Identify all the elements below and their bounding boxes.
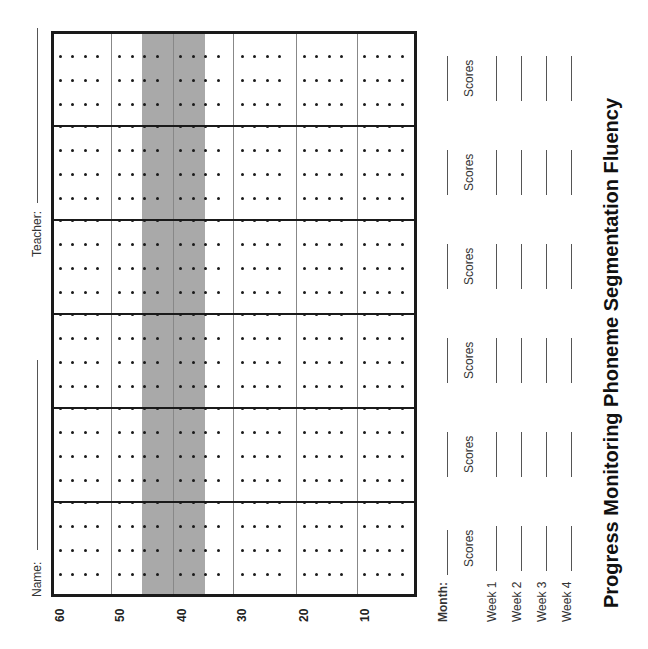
grid-dot xyxy=(363,431,366,434)
grid-dot xyxy=(71,385,74,388)
week-score-line[interactable] xyxy=(521,56,522,101)
grid-dot xyxy=(388,103,391,106)
grid-dot xyxy=(401,549,404,552)
grid-dot xyxy=(376,219,379,222)
grid-dot xyxy=(84,55,87,58)
grid-dot xyxy=(253,149,256,152)
grid-dot xyxy=(303,501,306,504)
month-field-line[interactable] xyxy=(447,56,448,101)
grid-dot xyxy=(179,79,182,82)
grid-dot xyxy=(96,501,99,504)
week-score-line[interactable] xyxy=(496,526,497,571)
grid-dot xyxy=(328,573,331,576)
week-score-line[interactable] xyxy=(521,338,522,383)
grid-dot xyxy=(328,291,331,294)
grid-dot xyxy=(388,385,391,388)
grid-dot xyxy=(96,431,99,434)
week-score-line[interactable] xyxy=(546,150,547,195)
month-field-line[interactable] xyxy=(447,150,448,195)
week-score-line[interactable] xyxy=(521,150,522,195)
week-score-line[interactable] xyxy=(521,526,522,571)
grid-dot xyxy=(278,431,281,434)
grid-dot xyxy=(59,79,62,82)
grid-dot xyxy=(118,337,121,340)
grid-dot xyxy=(192,501,195,504)
grid-dot xyxy=(59,219,62,222)
grid-dot xyxy=(328,337,331,340)
grid-dot xyxy=(376,549,379,552)
grid-dot xyxy=(278,573,281,576)
grid-dot xyxy=(253,431,256,434)
grid-dot xyxy=(59,407,62,410)
name-field-line[interactable] xyxy=(37,360,38,550)
grid-dot xyxy=(217,55,220,58)
grid-dot xyxy=(143,55,146,58)
axis-tick-20: 20 xyxy=(297,609,311,622)
grid-dot xyxy=(376,337,379,340)
week-3-label: Week 3 xyxy=(535,582,549,622)
grid-dot xyxy=(59,103,62,106)
grid-dot xyxy=(179,291,182,294)
grid-dot xyxy=(131,55,134,58)
week-score-line[interactable] xyxy=(521,244,522,289)
grid-dot xyxy=(278,549,281,552)
grid-dot xyxy=(340,55,343,58)
grid-dot xyxy=(59,243,62,246)
grid-dot xyxy=(96,243,99,246)
month-field-line[interactable] xyxy=(447,530,448,575)
week-score-line[interactable] xyxy=(571,244,572,289)
grid-dot xyxy=(192,103,195,106)
grid-dot xyxy=(217,313,220,316)
grid-dot xyxy=(192,455,195,458)
grid-dot xyxy=(315,525,318,528)
grid-dot xyxy=(278,407,281,410)
grid-dot xyxy=(363,525,366,528)
week-score-line[interactable] xyxy=(546,526,547,571)
month-field-line[interactable] xyxy=(447,338,448,383)
grid-dot xyxy=(303,479,306,482)
week-score-line[interactable] xyxy=(546,56,547,101)
week-score-line[interactable] xyxy=(496,56,497,101)
grid-dot xyxy=(388,313,391,316)
teacher-field-line[interactable] xyxy=(37,28,38,203)
grid-dot xyxy=(363,197,366,200)
grid-dot xyxy=(401,431,404,434)
grid-dot xyxy=(266,501,269,504)
grid-dot xyxy=(278,479,281,482)
grid-dot xyxy=(217,549,220,552)
week-score-line[interactable] xyxy=(496,150,497,195)
week-score-line[interactable] xyxy=(571,432,572,477)
grid-dot xyxy=(118,385,121,388)
grid-dot xyxy=(363,337,366,340)
week-score-line[interactable] xyxy=(571,338,572,383)
week-score-line[interactable] xyxy=(546,338,547,383)
week-score-line[interactable] xyxy=(496,338,497,383)
grid-dot xyxy=(266,525,269,528)
week-score-line[interactable] xyxy=(546,432,547,477)
week-score-line[interactable] xyxy=(521,432,522,477)
week-score-line[interactable] xyxy=(546,244,547,289)
scores-label: Scores xyxy=(462,154,476,191)
grid-dot xyxy=(363,243,366,246)
week-score-line[interactable] xyxy=(571,526,572,571)
grid-dot xyxy=(84,501,87,504)
month-field-line[interactable] xyxy=(447,244,448,289)
grid-dot xyxy=(266,103,269,106)
week-score-line[interactable] xyxy=(496,244,497,289)
grid-dot xyxy=(118,55,121,58)
grid-dot xyxy=(303,149,306,152)
week-score-line[interactable] xyxy=(571,56,572,101)
grid-dot xyxy=(71,197,74,200)
grid-dot xyxy=(241,479,244,482)
grid-dot xyxy=(363,407,366,410)
month-field-line[interactable] xyxy=(447,432,448,477)
week-score-line[interactable] xyxy=(496,432,497,477)
grid-dot xyxy=(118,243,121,246)
grid-dot xyxy=(118,173,121,176)
grid-dot xyxy=(241,573,244,576)
grid-dot xyxy=(303,407,306,410)
grid-dot xyxy=(156,219,159,222)
grid-dot xyxy=(315,313,318,316)
week-score-line[interactable] xyxy=(571,150,572,195)
grid-dot xyxy=(179,267,182,270)
